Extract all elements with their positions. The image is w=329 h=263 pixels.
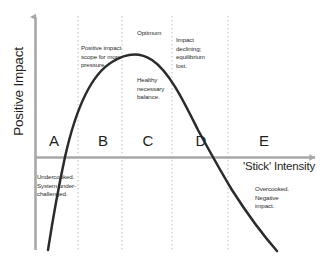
annotation-positive-impact-scope: Positive impact scope for more pressure. xyxy=(81,44,125,70)
zone-label-c: C xyxy=(138,132,158,149)
annotation-healthy-balance: Healthy necessary balance. xyxy=(137,76,173,102)
zone-label-b: B xyxy=(93,132,113,149)
annotation-undercooked: Undercooked. System under- challenged. xyxy=(37,173,85,199)
y-axis-label: Positive Impact xyxy=(11,32,26,152)
annotation-optimum: Optimum xyxy=(137,29,177,38)
stick-intensity-curve-chart: Positive Impact 'Stick' Intensity A B C … xyxy=(0,0,329,263)
annotation-overcooked: Overcooked. Negative impact. xyxy=(255,185,303,211)
zone-label-d: D xyxy=(191,132,211,149)
annotation-impact-declining: Impact declining; equilibrium lost. xyxy=(176,36,220,70)
zone-label-e: E xyxy=(254,132,274,149)
zone-label-a: A xyxy=(44,132,64,149)
x-axis-label: 'Stick' Intensity xyxy=(243,160,315,172)
